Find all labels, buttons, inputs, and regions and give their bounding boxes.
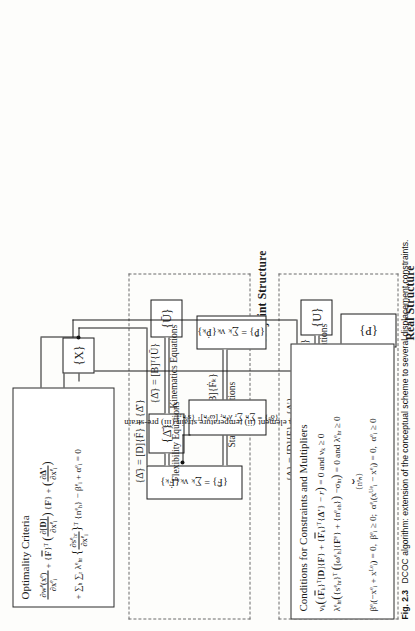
panel-conditions-brace-label: ⏟ {nᵉₕ} bbox=[344, 351, 362, 611]
label-adjoint-kinematics-equations: Kinematics Equations bbox=[168, 324, 178, 408]
figure-caption: Fig. 2.3 DCOC algorithm: extension of th… bbox=[399, 239, 409, 619]
equation-adjoint-flexibility: {Δ̄} = [D]{F̄} + {Δ̄'} bbox=[133, 399, 144, 483]
bus-optimality-rail-h bbox=[63, 373, 64, 387]
panel-optimality-title: Optimality Criteria bbox=[18, 395, 30, 599]
connector-adjoint-virtual-strain bbox=[182, 434, 183, 462]
bus-optimality-drop bbox=[40, 336, 78, 337]
box-real-P-label: {P} bbox=[359, 323, 377, 338]
bus-design-to-real-v bbox=[72, 319, 296, 320]
box-adjoint-P-label: {P̄} = ∑ₖ νₖ{Ṗₖ} bbox=[197, 327, 264, 338]
note-delta-prime-item-2: (iii) pre-strain bbox=[124, 415, 174, 427]
panel-conditions-line-2: λehr({sehr}T ([ωeh]{Fe} + {neoh}) −σhr) … bbox=[329, 351, 345, 611]
panel-optimality-line-2: + ∑h ∑r λehr {∂sehr∂xei}T {neh} − βei + … bbox=[68, 395, 89, 599]
panel-conditions-title: Conditions for Constraints and Multiplie… bbox=[296, 351, 308, 611]
panel-conditions-brace-text: {nᵉₕ} bbox=[354, 472, 363, 489]
bus-design-to-adjoint-h bbox=[78, 327, 79, 337]
bus-design-to-adjoint-v bbox=[78, 327, 146, 328]
bus-conditions-rail-v bbox=[94, 370, 290, 371]
connector-adjoint-virtual-strain-drop bbox=[182, 434, 190, 435]
bus-design-to-real-h bbox=[72, 319, 73, 337]
panel-conditions-line-3: βei(−xei + xLei) = 0, βei ≥ 0; αei(xUei … bbox=[365, 351, 381, 611]
box-design-variables-X: {X} bbox=[62, 337, 94, 373]
figure-caption-text: DCOC algorithm: extension of the concept… bbox=[399, 239, 409, 583]
panel-conditions-line-1: νk({Ḟk}T[D]{F} + {Ḟk}T{Δ'} − r) = 0 an… bbox=[313, 351, 329, 611]
figure-caption-number: Fig. 2.3 bbox=[399, 589, 409, 619]
bus-design-to-panels-h bbox=[78, 373, 79, 381]
panel-optimality-line-1: ∂we(xe)∂xei + {F}T (∂[D]∂xei) {F} + (∂Δ'… bbox=[38, 395, 58, 599]
note-delta-prime-item-1: (ii) temperature strain bbox=[177, 415, 255, 427]
box-adjoint-forces-F: {F̄} = ∑ₖ νₖ{Ḟₖ} bbox=[146, 465, 242, 499]
connector-adjoint-flexibility bbox=[164, 453, 169, 465]
equation-adjoint-kinematics: {Δ̄} = [B]ᵀ{Ū} bbox=[148, 343, 159, 403]
panel-optimality-criteria: Optimality Criteria ∂we(xe)∂xei + {F}T (… bbox=[12, 387, 114, 607]
bus-design-to-adjoint-entry bbox=[146, 327, 147, 465]
box-design-variables-label: {X} bbox=[71, 345, 86, 365]
panel-conditions-constraints-multipliers: Conditions for Constraints and Multiplie… bbox=[290, 343, 394, 619]
box-real-loads-P: {P} bbox=[340, 313, 396, 347]
